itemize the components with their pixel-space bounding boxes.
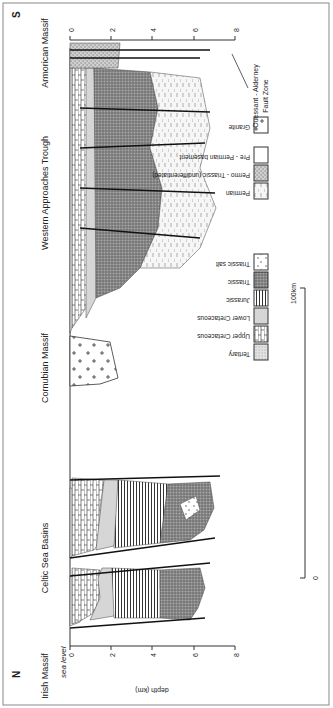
fault-leader-line [232, 54, 248, 88]
region-cornubian-massif: Cornubian Massif [40, 332, 50, 403]
western-approaches-trough [70, 68, 216, 333]
legend-label-lower-cretaceous: Lower Cretaceous [197, 315, 250, 322]
north-label: N [11, 671, 22, 678]
scale-end-label: 100km [290, 283, 297, 304]
region-western-approaches-trough: Western Approaches Trough [40, 136, 50, 250]
right-tick-4: 4 [150, 28, 157, 32]
legend-label-granite: Granite [228, 124, 250, 131]
cross-section-figure: N S Irish Massif Celtic Sea Basins Cornu… [0, 0, 333, 708]
legend-label-jurassic: Jurassic [225, 297, 250, 304]
right-tick-8: 8 [233, 28, 240, 32]
legend-swatch-permo-triassic [254, 165, 268, 181]
cornubian-granite [70, 336, 118, 386]
legend-swatch-basement [254, 147, 268, 163]
legend-swatch-triassic-salt [254, 254, 268, 270]
legend-label-basement: Pre - Permian basement [179, 154, 250, 161]
right-tick-6: 6 [192, 28, 199, 32]
armorican-margin [70, 43, 210, 68]
legend-label-permian: Permian [225, 190, 250, 197]
legend-swatch-lower-cretaceous [254, 308, 268, 324]
left-depth-axis [70, 646, 235, 650]
legend-label-upper-cretaceous: Upper Cretaceous [197, 332, 250, 340]
south-label: S [11, 11, 22, 18]
scale-bar [300, 288, 305, 578]
celtic-sea-basin-2 [70, 476, 220, 558]
cross-section-svg: N S Irish Massif Celtic Sea Basins Cornu… [0, 0, 333, 708]
legend-label-permo-triassic: Permo - Triassic (undifferentiated) [152, 171, 250, 179]
region-armorican-massif: Armorican Massif [40, 18, 50, 88]
scale-start-label: 0 [312, 576, 319, 580]
legend-swatch-jurassic [254, 290, 268, 306]
fault-label-line1: Ouessant - Alderney [252, 64, 260, 128]
left-tick-6: 6 [192, 653, 199, 657]
region-celtic-sea-basins: Celtic Sea Basins [40, 522, 50, 593]
legend-swatch-permian [254, 183, 268, 199]
right-depth-axis [70, 36, 235, 40]
left-tick-8: 8 [233, 653, 240, 657]
celtic-sea-basin-1 [70, 563, 210, 628]
depth-axis-label: depth (km) [135, 686, 168, 694]
right-tick-0: 0 [68, 28, 75, 32]
sea-level-label: sea level [59, 646, 68, 678]
left-tick-4: 4 [150, 653, 157, 657]
left-tick-0: 0 [68, 653, 75, 657]
legend-label-triassic-salt: Triassic salt [216, 261, 250, 268]
legend-swatch-tertiary [254, 344, 268, 360]
legend-label-tertiary: Tertiary [228, 350, 250, 358]
legend-label-triassic: Triassic [227, 279, 250, 286]
right-tick-2: 2 [109, 28, 116, 32]
region-irish-massif: Irish Massif [40, 653, 50, 699]
legend [254, 117, 268, 360]
left-tick-2: 2 [109, 653, 116, 657]
legend-swatch-triassic [254, 272, 268, 288]
legend-swatch-upper-cretaceous [254, 326, 268, 342]
fault-label-line2: Fault Zone [262, 79, 269, 113]
